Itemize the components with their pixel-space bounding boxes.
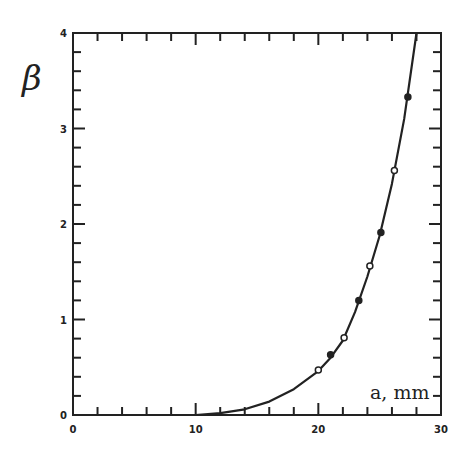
plot-frame [73,33,441,415]
fit-curve [196,33,417,415]
data-point [405,94,411,100]
y-tick-label: 2 [60,219,67,230]
y-tick-label: 1 [60,315,67,326]
x-tick-label: 10 [189,424,203,435]
y-tick-label: 3 [60,124,67,135]
y-tick-label: 0 [60,410,67,421]
data-point [378,230,384,236]
x-tick-label: 0 [70,424,77,435]
data-point [391,168,397,174]
data-point [367,263,373,269]
x-axis-label: a, mm [370,381,429,403]
data-point [341,335,347,341]
data-point [356,297,362,303]
y-axis-label: β [22,58,42,98]
x-tick-label: 20 [311,424,325,435]
data-point [328,352,334,358]
y-tick-label: 4 [60,28,67,39]
data-point [315,367,321,373]
x-tick-label: 30 [434,424,448,435]
